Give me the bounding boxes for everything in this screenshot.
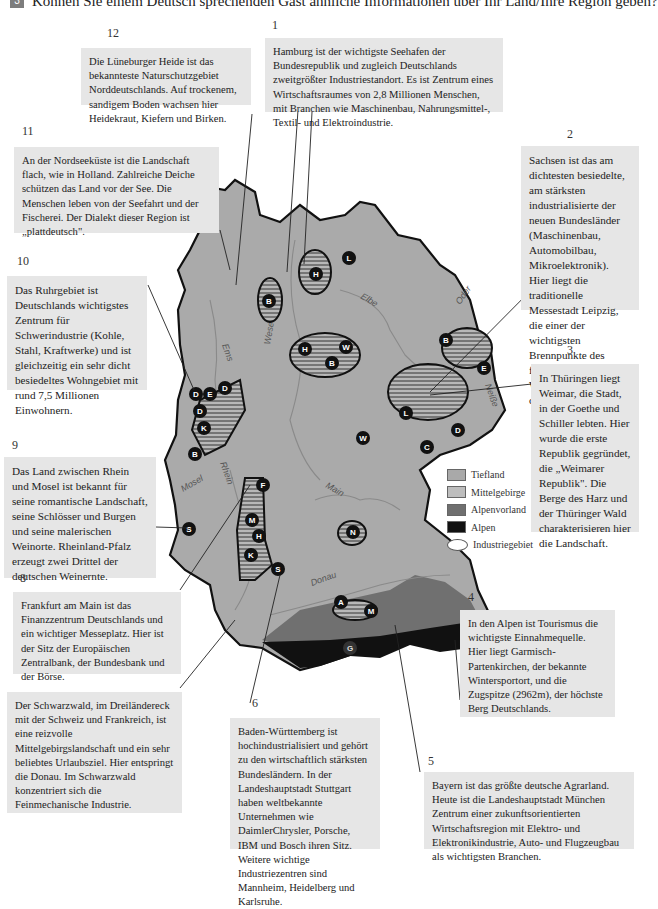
svg-text:D: D xyxy=(222,384,228,393)
legend-item-alpenvorland: Alpenvorland xyxy=(447,501,533,519)
info-box-5: Bayern ist das größte deutsche Agrarland… xyxy=(424,772,634,849)
svg-text:H: H xyxy=(313,270,319,279)
marker-L-leipzig: L xyxy=(399,406,413,420)
marker-D-ruhr3: D xyxy=(193,404,207,418)
marker-D-dresden: D xyxy=(451,423,465,437)
marker-N-nuernberg: N xyxy=(346,525,360,539)
swatch-alpenvorland-icon xyxy=(447,504,466,516)
svg-text:B: B xyxy=(329,359,335,368)
svg-text:F: F xyxy=(261,481,266,490)
svg-text:E: E xyxy=(481,364,487,373)
marker-D-ruhr1: D xyxy=(189,387,203,401)
svg-text:W: W xyxy=(359,434,367,443)
svg-text:H: H xyxy=(256,532,262,541)
marker-W-weimar: W xyxy=(356,431,370,445)
svg-text:W: W xyxy=(342,343,350,352)
marker-S-saarbruecken: S xyxy=(182,522,196,536)
svg-text:K: K xyxy=(248,551,254,560)
legend-item-alpen: Alpen xyxy=(447,519,533,537)
info-box-12: Die Lüneburger Heide ist das bekannteste… xyxy=(81,48,251,105)
marker-D-ruhr2: D xyxy=(218,381,232,395)
svg-text:M: M xyxy=(368,607,375,616)
svg-text:D: D xyxy=(193,390,199,399)
info-box-6: Baden-Württemberg ist hochindustrialisie… xyxy=(230,718,380,849)
marker-B-bremen: B xyxy=(262,294,276,308)
marker-L-north: L xyxy=(342,251,356,265)
swatch-industriegebiet-icon xyxy=(447,539,468,551)
svg-text:B: B xyxy=(266,297,272,306)
svg-text:N: N xyxy=(350,528,356,537)
svg-text:S: S xyxy=(186,525,192,534)
svg-text:D: D xyxy=(455,426,461,435)
box-12-number: 12 xyxy=(107,26,119,41)
svg-text:H: H xyxy=(302,345,308,354)
box-8-number: 8 xyxy=(20,571,26,586)
marker-H-hannover: H xyxy=(298,342,312,356)
legend-item-tiefland: Tiefland xyxy=(447,466,533,484)
svg-text:E: E xyxy=(207,390,213,399)
info-box-11: An der Nordseeküste ist die Landschaft f… xyxy=(14,147,219,233)
marker-G-garmisch: G xyxy=(343,641,357,655)
swatch-tiefland-icon xyxy=(447,469,466,481)
svg-text:G: G xyxy=(347,644,353,653)
marker-H-heidelberg: H xyxy=(252,529,266,543)
box-4-number: 4 xyxy=(468,590,474,605)
box-6-number: 6 xyxy=(252,696,258,711)
marker-B-bonn: B xyxy=(188,447,202,461)
legend-item-mittelgebirge: Mittelgebirge xyxy=(447,484,533,502)
box-5-number: 5 xyxy=(428,754,434,769)
svg-text:D: D xyxy=(197,407,203,416)
svg-text:A: A xyxy=(338,598,344,607)
marker-S-stuttgart: S xyxy=(271,562,285,576)
marker-H-hamburg: H xyxy=(309,267,323,281)
svg-text:C: C xyxy=(424,443,430,452)
box-10-number: 10 xyxy=(17,254,29,269)
svg-text:K: K xyxy=(201,424,207,433)
marker-B-berlin: B xyxy=(439,333,453,347)
map-legend: Tiefland Mittelgebirge Alpenvorland Alpe… xyxy=(447,466,533,554)
marker-M-mannheim: M xyxy=(245,513,259,527)
info-box-8: Frankfurt am Main ist das Finanzzentrum … xyxy=(13,592,181,674)
box-2-number: 2 xyxy=(567,127,573,142)
info-box-7: Der Schwarzwald, im Dreiländereck mit de… xyxy=(7,692,182,813)
marker-C-chemnitz: C xyxy=(420,440,434,454)
box-1-number: 1 xyxy=(272,18,278,33)
marker-K-karlsruhe: K xyxy=(244,548,258,562)
swatch-alpen-icon xyxy=(447,521,466,533)
svg-text:S: S xyxy=(275,565,281,574)
svg-text:B: B xyxy=(192,450,198,459)
marker-W-wolfsburg: W xyxy=(339,340,353,354)
box-3-number: 3 xyxy=(567,343,573,358)
legend-item-industriegebiet: Industriegebiet xyxy=(447,536,533,554)
marker-F-frankfurt: F xyxy=(256,478,270,492)
info-box-4: In den Alpen ist Tourismus die wichtigst… xyxy=(460,610,615,717)
swatch-mittelgebirge-icon xyxy=(447,486,466,498)
info-box-10: Das Ruhrgebiet ist Deutschlands wichtigs… xyxy=(7,276,147,390)
svg-text:L: L xyxy=(347,254,352,263)
marker-E-ruhr: E xyxy=(203,387,217,401)
info-box-9: Das Land zwischen Rhein und Mosel ist be… xyxy=(4,457,156,578)
marker-A-augsburg: A xyxy=(334,595,348,609)
svg-text:M: M xyxy=(249,516,256,525)
marker-M-muenchen: M xyxy=(364,604,378,618)
box-11-number: 11 xyxy=(22,124,34,139)
marker-B-braunschweig: B xyxy=(325,356,339,370)
info-box-1: Hamburg ist der wichtigste Seehafen der … xyxy=(265,38,503,112)
info-box-3: In Thüringen liegt Weimar, die Stadt, in… xyxy=(531,364,639,532)
svg-text:L: L xyxy=(404,409,409,418)
marker-K-koeln: K xyxy=(197,421,211,435)
marker-E-east: E xyxy=(477,361,491,375)
info-box-2: Sachsen ist das am dichtesten besiedelte… xyxy=(521,146,639,310)
svg-text:B: B xyxy=(443,336,449,345)
box-9-number: 9 xyxy=(12,438,18,453)
